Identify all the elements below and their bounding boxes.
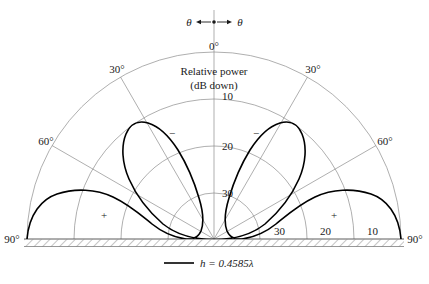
- ground-plane: [24, 239, 404, 247]
- spoke-right-60: [214, 146, 376, 240]
- ring-label-vertical-20: 20: [222, 140, 234, 152]
- legend: h = 0.4585λ: [164, 257, 254, 269]
- vertical-ring-labels: 10 20 30: [222, 90, 234, 199]
- theta-annotation: θ θ 0°: [186, 10, 243, 52]
- theta-arrow-left-head: [196, 20, 201, 24]
- polarity-marker-upper-right: −: [253, 127, 259, 139]
- ring-label-vertical-10: 10: [222, 90, 234, 102]
- angle-label-right-30: 30°: [305, 63, 320, 75]
- angle-label-left-30: 30°: [109, 63, 124, 75]
- legend-label: h = 0.4585λ: [200, 257, 254, 269]
- polarity-marker-lower-left: +: [101, 209, 107, 221]
- angle-label-left-90: 90°: [4, 233, 19, 245]
- ring-label-horizontal-10: 10: [367, 225, 379, 237]
- ring-label-horizontal-30: 30: [274, 225, 286, 237]
- angle-label-right-60: 60°: [377, 135, 392, 147]
- theta-label-right: θ: [237, 16, 243, 28]
- angle-label-0deg: 0°: [209, 40, 219, 52]
- angle-label-left-60: 60°: [38, 135, 53, 147]
- ring-label-horizontal-20: 20: [320, 225, 332, 237]
- theta-label-left: θ: [186, 16, 192, 28]
- plot-title: Relative power (dB down): [181, 65, 248, 92]
- angle-label-right-90: 90°: [407, 233, 422, 245]
- spoke-left-30: [121, 77, 215, 239]
- theta-arrow-right-head: [227, 20, 232, 24]
- ground-hatching: [24, 240, 404, 247]
- plot-title-line1: Relative power: [181, 65, 248, 77]
- ring-label-vertical-30: 30: [222, 187, 234, 199]
- radiation-pattern-figure: θ θ 0° Relative power (dB down) 30° 60° …: [0, 0, 429, 284]
- polarity-marker-upper-left: −: [169, 127, 175, 139]
- polar-plot-svg: θ θ 0° Relative power (dB down) 30° 60° …: [0, 0, 429, 284]
- spoke-left-60: [52, 146, 214, 240]
- polarity-marker-lower-right: +: [331, 209, 337, 221]
- horizontal-ring-labels: 30 20 10: [274, 225, 379, 237]
- theta-origin-dot: [212, 20, 216, 24]
